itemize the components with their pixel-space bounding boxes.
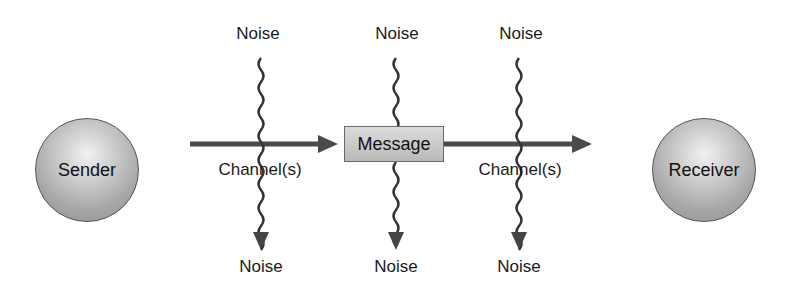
message-box: Message: [344, 126, 444, 162]
channel-label-2: Channel(s): [478, 160, 561, 180]
noise-bottom-2: Noise: [374, 257, 417, 277]
channel-label-1: Channel(s): [218, 160, 301, 180]
noise-bottom-1: Noise: [239, 257, 282, 277]
sender-node: Sender: [35, 118, 139, 222]
noise-top-2: Noise: [375, 24, 418, 44]
message-label: Message: [357, 134, 430, 155]
noise-bottom-3: Noise: [497, 257, 540, 277]
sender-label: Sender: [58, 160, 116, 181]
noise-line-1: [253, 58, 269, 250]
noise-top-1: Noise: [236, 24, 279, 44]
communication-diagram: Sender Receiver Message Channel(s) Chann…: [0, 0, 796, 285]
receiver-label: Receiver: [668, 160, 739, 181]
receiver-node: Receiver: [652, 118, 756, 222]
noise-line-3: [511, 58, 527, 250]
noise-top-3: Noise: [499, 24, 542, 44]
